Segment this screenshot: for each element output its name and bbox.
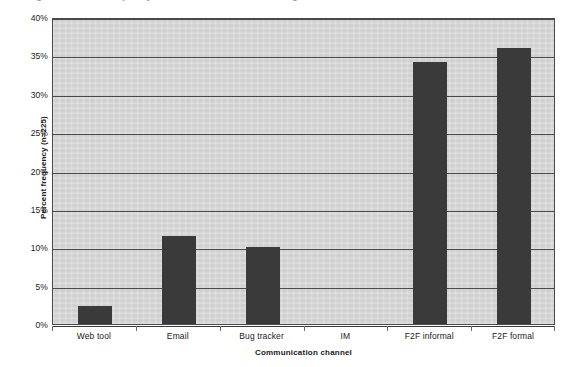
x-tick-label: IM <box>304 331 388 341</box>
bar-f2f-formal[interactable] <box>497 48 531 324</box>
y-tick-label: 25% <box>12 128 48 138</box>
gridline-40% <box>53 19 554 20</box>
x-axis-title: Communication channel <box>52 348 555 357</box>
gridline-10% <box>53 249 554 250</box>
bar-f2f-informal[interactable] <box>413 62 447 324</box>
gridline-35% <box>53 57 554 58</box>
x-axis-tick-labels: Web toolEmailBug trackerIMF2F informalF2… <box>52 331 555 345</box>
gridline-30% <box>53 96 554 97</box>
bar-bug-tracker[interactable] <box>246 247 280 324</box>
y-tick-label: 40% <box>12 13 48 23</box>
gridline-5% <box>53 288 554 289</box>
y-tick-label: 15% <box>12 205 48 215</box>
y-tick-label: 20% <box>12 167 48 177</box>
gridline-15% <box>53 211 554 212</box>
plot-area <box>52 18 555 325</box>
y-tick-label: 35% <box>12 51 48 61</box>
bar-chart-figure: Percent frequency (n=225) 0%5%10%15%20%2… <box>0 0 566 367</box>
x-tick-label: F2F formal <box>471 331 555 341</box>
x-tick-label: Email <box>136 331 220 341</box>
x-tick-label: Web tool <box>52 331 136 341</box>
bar-web-tool[interactable] <box>78 306 112 324</box>
x-tick-label: F2F informal <box>387 331 471 341</box>
gridline-20% <box>53 173 554 174</box>
y-axis-tick-labels: 0%5%10%15%20%25%30%35%40% <box>12 18 48 325</box>
plot-texture <box>53 19 554 324</box>
y-tick-label: 5% <box>12 282 48 292</box>
y-tick-label: 0% <box>12 320 48 330</box>
bar-email[interactable] <box>162 236 196 324</box>
y-tick-label: 10% <box>12 243 48 253</box>
x-tick-label: Bug tracker <box>220 331 304 341</box>
gridline-25% <box>53 134 554 135</box>
y-tick-label: 30% <box>12 90 48 100</box>
